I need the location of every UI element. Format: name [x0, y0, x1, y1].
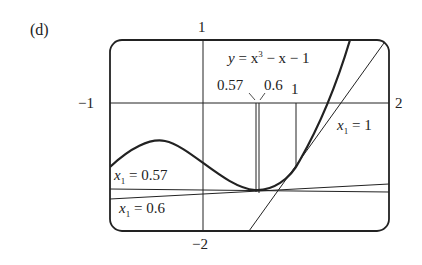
tick-right: 2	[395, 96, 403, 111]
label-x1-1: x1 = 1	[337, 118, 372, 136]
curve-label: y = x3 − x − 1	[228, 50, 310, 66]
marker-label-1: 1	[291, 82, 299, 97]
marker-label-057: 0.57	[217, 78, 243, 93]
label-x1-057: x1 = 0.57	[114, 168, 167, 186]
tick-bottom: −2	[192, 237, 208, 252]
tick-top: 1	[198, 20, 206, 35]
label-x1-06: x1 = 0.6	[119, 201, 165, 219]
marker-label-06: 0.6	[264, 78, 283, 93]
tick-left: −1	[78, 96, 94, 111]
